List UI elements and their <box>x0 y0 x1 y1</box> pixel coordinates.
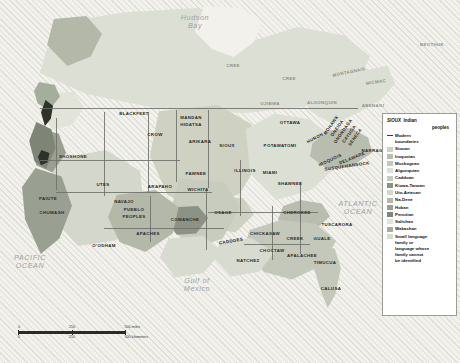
native-american-language-families-map: HudsonBayATLANTICOCEANPACIFICOCEANGulf o… <box>0 0 460 363</box>
legend-item-label: Penutian <box>395 212 414 218</box>
legend-item-label: Wakashan <box>395 226 417 232</box>
legend-boundary-line-icon <box>387 133 393 138</box>
legend-item-list: ModernboundariesSiouanIroquoianMuskogean… <box>387 133 453 264</box>
legend-item-label: Iroquoian <box>395 154 415 160</box>
legend-item: Muskogean <box>387 161 453 167</box>
legend-item: Algonquian <box>387 168 453 174</box>
scale-km-numbers: 0 250 500 kilometers <box>18 335 126 340</box>
map-legend: SIOUX Indian peoples ModernboundariesSio… <box>382 113 457 316</box>
legend-item: Penutian <box>387 212 453 218</box>
legend-color-swatch <box>387 198 393 203</box>
legend-item: Modernboundaries <box>387 133 453 145</box>
ocean-label-hudson-bay: HudsonBay <box>181 14 209 31</box>
legend-color-swatch <box>387 190 393 195</box>
scale-bar-graphic <box>18 331 126 334</box>
ocean-label-gulf-of-mexico: Gulf ofMexico <box>184 277 210 294</box>
legend-color-swatch <box>387 176 393 181</box>
legend-title-text: Indian <box>404 118 417 123</box>
legend-color-swatch <box>387 227 393 232</box>
legend-color-swatch <box>387 234 393 239</box>
legend-color-swatch <box>387 168 393 173</box>
legend-title: SIOUX Indian peoples <box>387 118 453 131</box>
legend-item-label: Uto-Aztecan <box>395 190 421 196</box>
legend-color-swatch <box>387 147 393 152</box>
legend-item: Small languagefamily orlanguage whosefam… <box>387 234 453 264</box>
scale-bar: 0 250 500 miles 0 250 500 kilometers <box>18 325 126 340</box>
legend-item: Hokan <box>387 205 453 211</box>
legend-item-label: Modernboundaries <box>395 133 419 145</box>
legend-color-swatch <box>387 212 393 217</box>
legend-color-swatch <box>387 154 393 159</box>
legend-item-label: Siouan <box>395 146 410 152</box>
legend-color-swatch <box>387 183 393 188</box>
legend-item: Kiowa-Tanoan <box>387 183 453 189</box>
legend-item-label: Salishan <box>395 219 413 225</box>
legend-item: Wakashan <box>387 226 453 232</box>
legend-item: Uto-Aztecan <box>387 190 453 196</box>
legend-item-label: Caddoan <box>395 175 414 181</box>
legend-color-swatch <box>387 205 393 210</box>
legend-color-swatch <box>387 219 393 224</box>
legend-item: Caddoan <box>387 175 453 181</box>
legend-item-label: Hokan <box>395 205 408 211</box>
legend-item-label: Small languagefamily orlanguage whosefam… <box>395 234 429 264</box>
legend-color-swatch <box>387 161 393 166</box>
legend-title-text2: peoples <box>387 125 453 132</box>
legend-item-label: Kiowa-Tanoan <box>395 183 425 189</box>
ocean-label-atlantic-ocean: ATLANTICOCEAN <box>338 200 377 217</box>
legend-item-label: Algonquian <box>395 168 419 174</box>
legend-title-example: SIOUX <box>387 118 401 123</box>
legend-item: Siouan <box>387 146 453 152</box>
legend-item: Iroquoian <box>387 154 453 160</box>
legend-item-label: Muskogean <box>395 161 419 167</box>
ocean-label-pacific-ocean: PACIFICOCEAN <box>14 254 46 271</box>
legend-item: Na-Dene <box>387 197 453 203</box>
legend-item-label: Na-Dene <box>395 197 413 203</box>
legend-item: Salishan <box>387 219 453 225</box>
